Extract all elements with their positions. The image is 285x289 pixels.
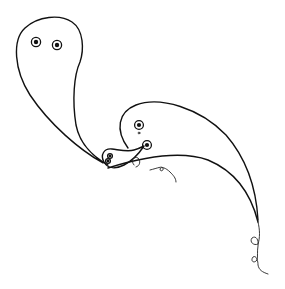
large-ghost-outline	[16, 17, 108, 165]
small-creature-eye-upper	[108, 154, 113, 159]
large-ghost	[16, 17, 108, 165]
small-creature	[102, 146, 144, 168]
large-ghost-eye-right	[52, 40, 61, 49]
large-ghost-eye-left	[31, 37, 40, 46]
small-creature-curl	[132, 157, 139, 167]
medium-ghost-lower-edge	[108, 155, 258, 222]
center-tail-curl	[150, 167, 176, 182]
medium-ghost-eye-right	[143, 141, 152, 150]
drawing-canvas	[0, 0, 285, 289]
medium-ghost-outline	[120, 102, 258, 220]
medium-ghost-nose	[138, 132, 140, 134]
bottom-tail-curls	[251, 222, 268, 274]
small-creature-eye-lower	[106, 159, 111, 164]
medium-ghost	[108, 102, 258, 222]
medium-ghost-eye-left	[135, 121, 144, 130]
